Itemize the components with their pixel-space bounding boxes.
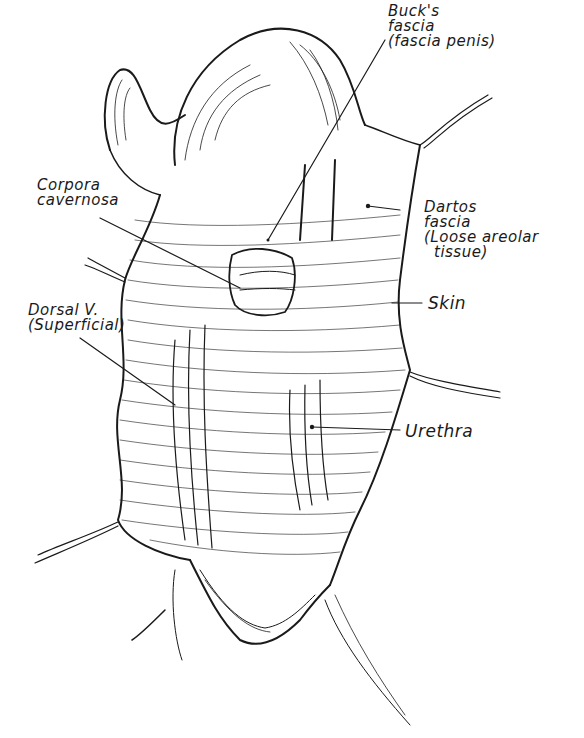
leader-corpora-cavernosa: [100, 218, 240, 288]
label-bucks-fascia-line3: (fascia penis): [388, 34, 496, 49]
shaft-outline: [117, 145, 420, 644]
leader-dorsal-v: [80, 338, 175, 405]
glans-outline: [174, 29, 365, 165]
exposed-corpora-window: [229, 249, 295, 315]
label-dorsal-v-line2: (Superficial): [28, 318, 125, 333]
anatomical-figure: Buck's fascia (fascia penis) Corpora cav…: [0, 0, 584, 738]
leader-dartos-fascia: [368, 206, 400, 210]
label-urethra: Urethra: [405, 424, 473, 439]
prepuce-fold: [105, 69, 185, 195]
label-urethra-line1: Urethra: [405, 424, 473, 439]
leader-urethra: [312, 427, 400, 430]
label-dorsal-v: Dorsal V. (Superficial): [28, 303, 125, 333]
illustration-linework: [0, 0, 584, 738]
leader-bucks-fascia: [268, 40, 385, 240]
label-dartos-fascia: Dartos fascia (Loose areolar tissue): [424, 200, 539, 260]
label-skin: Skin: [428, 296, 466, 311]
label-corpora-cavernosa: Corpora cavernosa: [37, 178, 119, 208]
leader-lines: [80, 40, 422, 430]
label-bucks-fascia: Buck's fascia (fascia penis): [388, 4, 496, 49]
label-corpora-line2: cavernosa: [37, 193, 119, 208]
label-dartos-line4: tissue): [424, 245, 539, 260]
label-skin-line1: Skin: [428, 296, 466, 311]
